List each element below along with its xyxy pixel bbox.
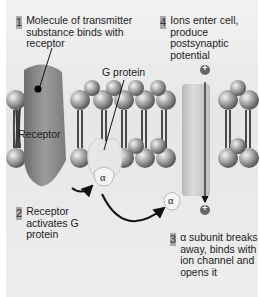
step-2-number: 2 (16, 207, 22, 220)
transmitter-molecule (35, 86, 42, 93)
step-1-text: Molecule of transmitter substance binds … (26, 15, 134, 50)
arrow-receptor-to-gprotein (72, 186, 92, 192)
alpha-label-2: α (168, 195, 174, 206)
plus-sign-top: + (202, 63, 207, 73)
step-4: 4 Ions enter cell, produce postsynaptic … (160, 15, 256, 61)
arrow-alpha-to-channel (102, 194, 164, 221)
step-4-number: 4 (160, 16, 166, 29)
step-2: 2 Receptor activates G protein (16, 206, 86, 241)
step-3: 3 α subunit breaks away, binds with ion … (170, 232, 258, 278)
step-4-text: Ions enter cell, produce postsynaptic po… (170, 15, 256, 61)
ion-channel (182, 84, 210, 196)
plus-sign-bottom: + (202, 203, 207, 213)
receptor-label: Receptor (18, 128, 61, 140)
g-protein-label: G protein (102, 66, 145, 78)
step-3-text: α subunit breaks away, binds with ion ch… (180, 232, 258, 278)
receptor-protein (24, 64, 66, 186)
step-3-number: 3 (170, 233, 176, 246)
step-2-text: Receptor activates G protein (26, 206, 86, 241)
step-1-number: 1 (16, 16, 22, 29)
alpha-label-1: α (100, 172, 106, 183)
step-1: 1 Molecule of transmitter substance bind… (16, 15, 134, 50)
